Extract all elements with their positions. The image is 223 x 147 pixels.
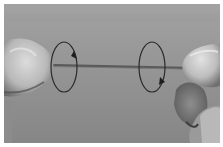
string-twisting-photo <box>4 4 220 143</box>
photo-frame <box>4 4 220 143</box>
